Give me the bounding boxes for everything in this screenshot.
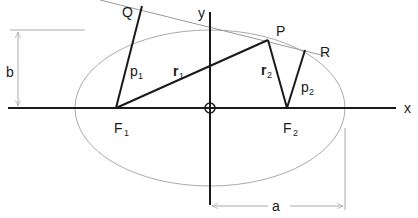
perp-p2-label: p 2 xyxy=(301,79,314,97)
semi-major-label: a xyxy=(272,198,280,214)
focus-1-label: F 1 xyxy=(114,120,129,138)
svg-text:F: F xyxy=(283,120,292,136)
svg-text:1: 1 xyxy=(124,128,129,138)
point-r-label: R xyxy=(320,44,330,60)
svg-text:2: 2 xyxy=(293,128,298,138)
y-axis-label: y xyxy=(198,5,205,21)
svg-text:2: 2 xyxy=(309,87,314,97)
svg-text:F: F xyxy=(114,120,123,136)
svg-text:1: 1 xyxy=(138,71,143,81)
radius-r1-label: r 1 xyxy=(173,63,184,81)
focus-2-label: F 2 xyxy=(283,120,298,138)
svg-text:1: 1 xyxy=(179,71,184,81)
perpendicular-p1 xyxy=(116,6,142,108)
point-p-label: P xyxy=(276,23,285,39)
svg-text:p: p xyxy=(301,79,309,95)
x-axis-label: x xyxy=(404,100,411,116)
perp-p1-label: p 1 xyxy=(130,63,143,81)
ellipse-diagram: Q y P R x b a F 1 F 2 r 1 r 2 p 1 p 2 xyxy=(0,0,418,218)
tangent-line xyxy=(100,0,325,56)
svg-text:2: 2 xyxy=(267,70,272,80)
radius-r2-label: r 2 xyxy=(261,62,272,80)
semi-minor-label: b xyxy=(6,64,14,80)
svg-text:p: p xyxy=(130,63,138,79)
point-q-label: Q xyxy=(122,4,133,20)
